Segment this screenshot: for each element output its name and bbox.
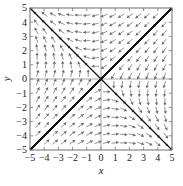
y-tick-label: −5 bbox=[16, 144, 27, 155]
x-tick-label: 3 bbox=[141, 152, 146, 163]
y-tick-label: −2 bbox=[16, 102, 27, 113]
y-tick-label: −4 bbox=[16, 130, 27, 141]
y-tick-label: 5 bbox=[22, 2, 27, 13]
y-tick-label: −1 bbox=[16, 88, 27, 99]
x-tick-label: 5 bbox=[170, 152, 175, 163]
y-axis-title: y bbox=[1, 76, 12, 82]
y-tick-label: 1 bbox=[22, 59, 27, 70]
y-axis-tick-labels: −5−4−3−2−1012345 bbox=[16, 2, 27, 155]
x-axis-title: x bbox=[98, 165, 104, 176]
y-tick-label: 3 bbox=[22, 31, 27, 42]
x-axis-tick-labels: −5−4−3−2−1012345 bbox=[25, 152, 175, 163]
phase-portrait-figure: −5−4−3−2−1012345 −5−4−3−2−1012345 x y bbox=[0, 0, 183, 186]
x-tick-label: −3 bbox=[53, 152, 64, 163]
x-tick-label: −2 bbox=[67, 152, 78, 163]
y-tick-label: 0 bbox=[22, 73, 27, 84]
y-tick-label: −3 bbox=[16, 116, 27, 127]
x-tick-label: −1 bbox=[81, 152, 92, 163]
y-tick-label: 2 bbox=[22, 45, 27, 56]
x-tick-label: −4 bbox=[39, 152, 50, 163]
x-tick-label: 2 bbox=[127, 152, 132, 163]
x-tick-label: 1 bbox=[113, 152, 118, 163]
x-tick-label: 0 bbox=[99, 152, 104, 163]
direction-field-plot: −5−4−3−2−1012345 −5−4−3−2−1012345 x y bbox=[0, 0, 183, 186]
x-tick-label: 4 bbox=[155, 152, 160, 163]
y-tick-label: 4 bbox=[22, 17, 27, 28]
